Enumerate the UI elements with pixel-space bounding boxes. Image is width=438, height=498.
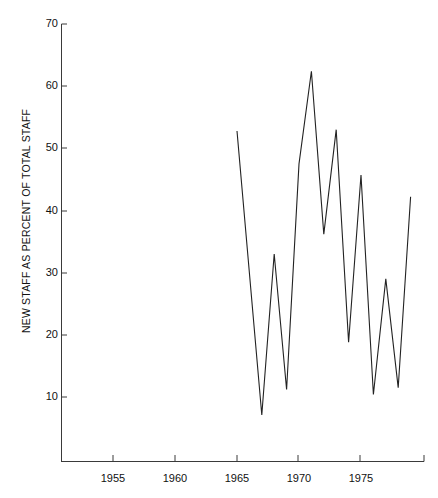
y-axis-title: NEW STAFF AS PERCENT OF TOTAL STAFF [20,91,32,351]
line-chart-figure: NEW STAFF AS PERCENT OF TOTAL STAFF 70 6… [0,0,438,498]
y-tick-label-10: 10 [28,390,58,402]
plot-area [0,0,438,498]
y-axis-ticks [62,24,68,397]
x-tick-label-1975: 1975 [339,472,383,484]
y-tick-label-20: 20 [28,328,58,340]
data-series-line [237,71,411,415]
y-tick-label-40: 40 [28,204,58,216]
y-tick-label-50: 50 [28,141,58,153]
x-tick-label-1960: 1960 [153,472,197,484]
y-tick-label-30: 30 [28,266,58,278]
x-axis-ticks [113,455,424,462]
x-tick-label-1965: 1965 [215,472,259,484]
x-tick-label-1955: 1955 [91,472,135,484]
x-tick-label-1970: 1970 [277,472,321,484]
y-tick-label-70: 70 [28,17,58,29]
y-tick-label-60: 60 [28,79,58,91]
